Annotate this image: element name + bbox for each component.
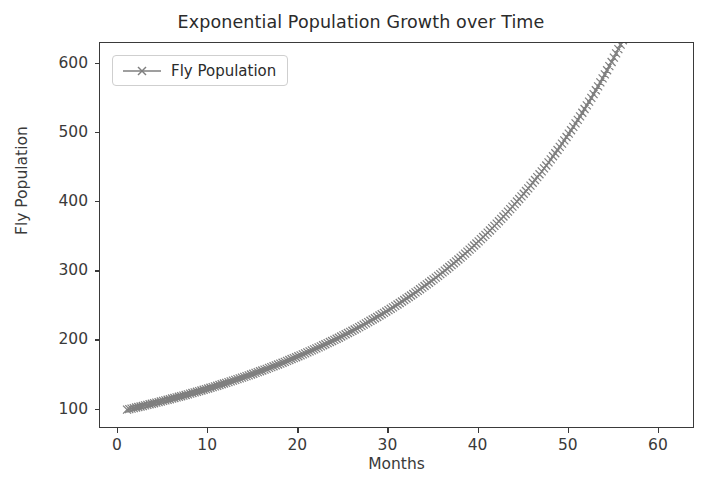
x-tick-label: 60 bbox=[648, 436, 668, 454]
chart-figure: Exponential Population Growth over Time … bbox=[0, 0, 722, 493]
y-axis-label: Fly Population bbox=[13, 126, 31, 235]
x-tick-mark bbox=[568, 428, 569, 433]
chart-title: Exponential Population Growth over Time bbox=[0, 12, 722, 32]
x-tick-mark bbox=[658, 428, 659, 433]
y-tick-label: 300 bbox=[58, 261, 88, 279]
legend-marker-icon bbox=[122, 64, 162, 78]
plot-area bbox=[99, 42, 694, 428]
x-tick-label: 30 bbox=[378, 436, 398, 454]
legend-label-fly-population: Fly Population bbox=[171, 62, 276, 80]
x-tick-label: 40 bbox=[468, 436, 488, 454]
y-tick-label: 600 bbox=[58, 54, 88, 72]
series-fly-population bbox=[123, 43, 638, 414]
x-tick-mark bbox=[207, 428, 208, 433]
x-tick-mark bbox=[387, 428, 388, 433]
x-tick-mark bbox=[117, 428, 118, 433]
x-tick-label: 50 bbox=[558, 436, 578, 454]
y-tick-label: 400 bbox=[58, 192, 88, 210]
legend: Fly Population bbox=[112, 55, 288, 86]
data-series-canvas bbox=[100, 43, 694, 428]
x-tick-mark bbox=[478, 428, 479, 433]
y-tick-label: 200 bbox=[58, 330, 88, 348]
x-axis-label: Months bbox=[99, 455, 694, 473]
x-tick-label: 0 bbox=[112, 436, 122, 454]
x-tick-label: 20 bbox=[287, 436, 307, 454]
y-tick-label: 100 bbox=[58, 400, 88, 418]
x-tick-label: 10 bbox=[197, 436, 217, 454]
x-tick-mark bbox=[297, 428, 298, 433]
y-tick-label: 500 bbox=[58, 123, 88, 141]
